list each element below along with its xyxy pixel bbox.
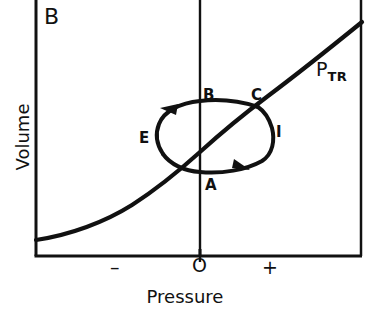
- loop-inspiratory-limb: [163, 107, 273, 173]
- figure-graphics: [0, 0, 370, 316]
- loop-point-label-a: A: [205, 178, 217, 193]
- curve-label-ptr-subscript: TR: [327, 69, 347, 84]
- x-tick-label-origin: O: [192, 256, 207, 275]
- y-axis-title: Volume: [14, 92, 32, 182]
- figure-panel-b: B Volume Pressure – O + PTR A B C E I: [0, 0, 370, 316]
- x-tick-label-positive: +: [262, 258, 278, 277]
- curve-label-ptr: PTR: [316, 60, 347, 83]
- loop-point-label-e: E: [139, 131, 149, 146]
- loop-point-label-c: C: [251, 88, 262, 103]
- loop-point-label-b: B: [203, 88, 214, 103]
- loop-point-label-i: I: [276, 125, 282, 140]
- x-tick-label-negative: –: [110, 258, 120, 277]
- curve-label-ptr-main: P: [316, 58, 327, 80]
- panel-label: B: [44, 6, 59, 28]
- x-axis-title: Pressure: [0, 288, 370, 306]
